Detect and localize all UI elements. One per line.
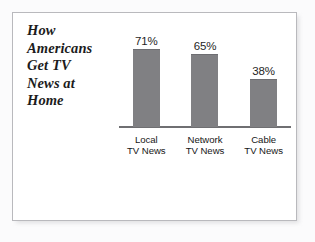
category-axis-labels: Local TV News Network TV News Cable TV N…: [117, 130, 293, 162]
bar-local-tv-news[interactable]: [133, 49, 160, 127]
category-label-cable: Cable TV News: [238, 130, 290, 162]
bar-cable-tv-news[interactable]: [250, 79, 277, 127]
plot-area: 71% 65% 38% Local TV News Network TV New…: [117, 19, 293, 164]
bar-column-cable: 38%: [238, 19, 290, 127]
bar-value-label: 38%: [252, 65, 275, 77]
bar-column-local: 71%: [120, 19, 172, 127]
bar-column-network: 65%: [179, 19, 231, 127]
page-root: How Americans Get TV News at Home 71% 65…: [0, 0, 315, 242]
category-label-network: Network TV News: [179, 130, 231, 162]
category-label-local: Local TV News: [120, 130, 172, 162]
bar-network-tv-news[interactable]: [191, 54, 218, 127]
bar-value-label: 71%: [135, 35, 158, 47]
chart-title: How Americans Get TV News at Home: [27, 22, 115, 110]
bar-value-label: 65%: [194, 40, 217, 52]
chart-card: How Americans Get TV News at Home 71% 65…: [12, 12, 297, 221]
bar-group: 71% 65% 38%: [117, 19, 293, 127]
